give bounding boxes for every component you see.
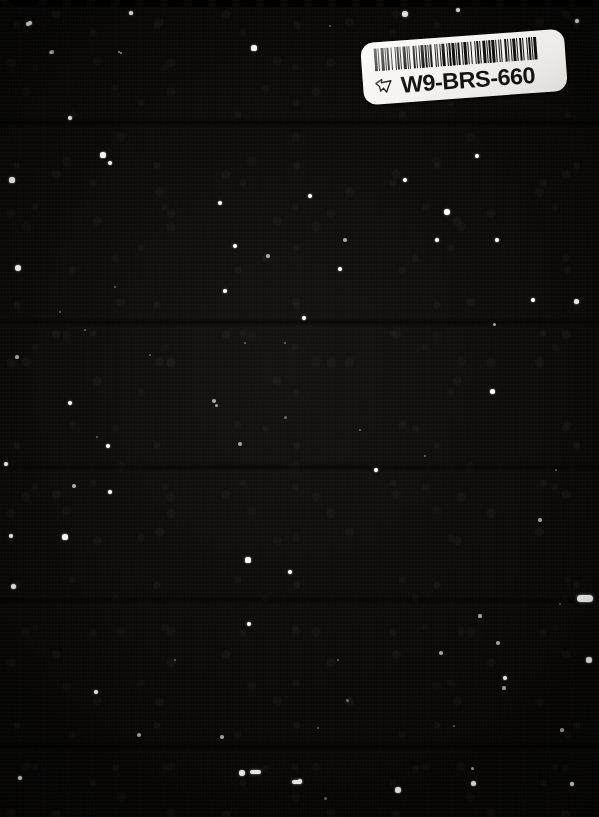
star bbox=[284, 416, 287, 419]
star bbox=[266, 254, 269, 257]
pointing-hand-icon bbox=[372, 75, 395, 97]
star bbox=[490, 389, 495, 394]
star bbox=[346, 699, 349, 702]
star bbox=[439, 651, 443, 655]
star bbox=[586, 657, 592, 663]
star bbox=[15, 355, 18, 358]
star bbox=[251, 45, 256, 50]
star bbox=[493, 323, 496, 326]
star bbox=[324, 797, 327, 800]
star bbox=[343, 238, 347, 242]
star bbox=[496, 641, 500, 645]
star bbox=[538, 518, 542, 522]
star bbox=[435, 238, 439, 242]
star bbox=[18, 776, 22, 780]
star bbox=[456, 8, 460, 12]
star bbox=[395, 787, 400, 792]
cover-grain-texture bbox=[0, 0, 599, 817]
star bbox=[471, 767, 474, 770]
top-edge-scallop bbox=[0, 0, 599, 7]
star bbox=[11, 584, 16, 589]
star bbox=[308, 194, 312, 198]
star bbox=[475, 154, 479, 158]
star bbox=[239, 770, 245, 776]
star-streak bbox=[250, 770, 261, 774]
star bbox=[108, 161, 112, 165]
star bbox=[62, 534, 67, 539]
star bbox=[50, 50, 53, 53]
star bbox=[574, 299, 579, 304]
star bbox=[9, 177, 14, 182]
star bbox=[220, 735, 223, 738]
scanned-cover-page: W9-BRS-660 bbox=[0, 0, 599, 817]
star bbox=[100, 152, 105, 157]
star bbox=[560, 728, 563, 731]
star-streak bbox=[577, 595, 593, 602]
star bbox=[245, 557, 250, 562]
star bbox=[215, 404, 218, 407]
star bbox=[238, 442, 242, 446]
star bbox=[478, 614, 481, 617]
barcode-space bbox=[536, 37, 540, 60]
star-streak bbox=[292, 780, 302, 784]
star bbox=[129, 11, 133, 15]
star bbox=[402, 11, 408, 17]
star bbox=[444, 209, 450, 215]
star bbox=[137, 733, 141, 737]
star bbox=[247, 622, 251, 626]
star bbox=[502, 686, 505, 689]
star bbox=[212, 399, 216, 403]
star bbox=[72, 484, 75, 487]
star bbox=[471, 781, 476, 786]
